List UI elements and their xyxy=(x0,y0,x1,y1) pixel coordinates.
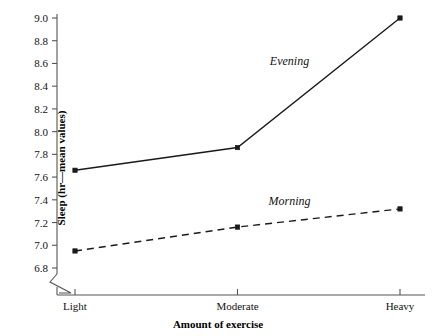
data-point-morning-heavy xyxy=(398,207,402,211)
y-tick-label: 8.2 xyxy=(0,103,48,115)
y-tick-label: 8.0 xyxy=(0,126,48,138)
data-point-morning-moderate xyxy=(235,225,239,229)
y-axis-title: Sleep (hr—mean values) xyxy=(55,111,67,226)
y-tick-label: 7.0 xyxy=(0,239,48,251)
series-label-evening: Evening xyxy=(270,54,309,69)
data-point-evening-heavy xyxy=(398,16,402,20)
x-axis-title: Amount of exercise xyxy=(173,318,263,330)
y-tick-label: 8.8 xyxy=(0,35,48,47)
y-tick-label: 7.4 xyxy=(0,194,48,206)
series-label-morning: Morning xyxy=(269,193,311,208)
x-tick-label-light: Light xyxy=(63,300,87,312)
data-point-morning-light xyxy=(73,249,77,253)
y-tick-label: 9.0 xyxy=(0,12,48,24)
y-tick-label: 8.6 xyxy=(0,57,48,69)
x-tick-label-heavy: Heavy xyxy=(386,300,415,312)
y-tick-label: 7.8 xyxy=(0,148,48,160)
data-point-evening-light xyxy=(73,168,77,172)
x-tick-label-moderate: Moderate xyxy=(216,300,258,312)
line-chart: 6.87.07.27.47.67.88.08.28.48.68.89.0 Lig… xyxy=(0,0,436,336)
y-tick-label: 7.2 xyxy=(0,217,48,229)
series-line-morning xyxy=(75,209,400,251)
y-tick-label: 8.4 xyxy=(0,80,48,92)
y-tick-label: 6.8 xyxy=(0,262,48,274)
y-tick-label: 7.6 xyxy=(0,171,48,183)
data-point-evening-moderate xyxy=(235,145,239,149)
